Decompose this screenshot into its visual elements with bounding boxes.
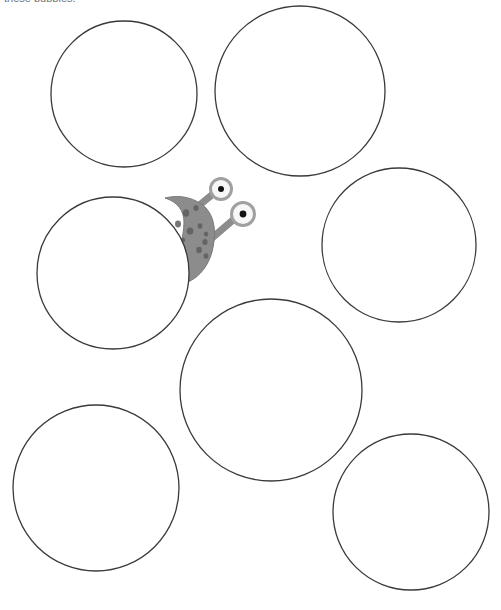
bubble-bottom-left[interactable]	[13, 405, 179, 571]
monster-body-spot	[196, 247, 202, 253]
bubble-worksheet-illustration	[0, 0, 501, 610]
eye-lower	[230, 201, 256, 227]
bubble-bottom-right[interactable]	[333, 434, 489, 590]
monster-body-spot	[204, 231, 208, 236]
bubble-center-bottom[interactable]	[180, 299, 362, 481]
monster-body-spot	[175, 221, 181, 228]
monster-body-spot	[204, 253, 209, 259]
bubble-middle-left[interactable]	[37, 197, 189, 349]
worksheet-canvas: these bubbles.	[0, 0, 501, 610]
eye-upper	[209, 177, 233, 201]
bubble-top-left[interactable]	[51, 21, 197, 167]
monster-body-spot	[187, 227, 194, 234]
bubble-middle-right[interactable]	[322, 168, 476, 322]
eye-pupil-upper	[218, 186, 224, 192]
eye-pupil-lower	[240, 211, 247, 218]
monster-body-spot	[183, 209, 189, 217]
monster-body-spot	[198, 223, 203, 229]
bubble-top-right[interactable]	[215, 6, 385, 176]
monster-body-spot	[193, 205, 198, 211]
monster-body-spot	[202, 239, 207, 245]
